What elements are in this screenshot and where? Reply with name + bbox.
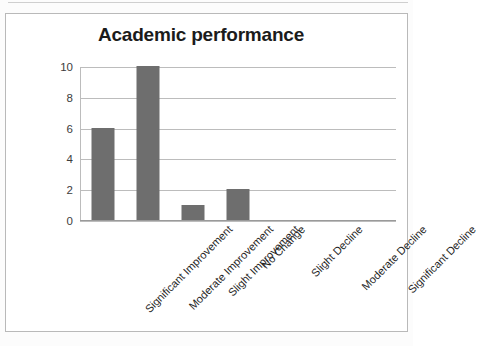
bar-slot xyxy=(351,67,396,220)
page-edge-rule xyxy=(8,2,408,3)
y-axis-tick-label: 2 xyxy=(67,184,73,196)
bar xyxy=(181,205,204,220)
bar-slot xyxy=(170,67,215,220)
bar xyxy=(136,66,159,220)
bar xyxy=(226,189,249,220)
y-axis-tick-label: 10 xyxy=(60,61,73,73)
y-axis-tick-label: 8 xyxy=(67,92,73,104)
bar-slot xyxy=(215,67,260,220)
chart-frame: Academic performance 0246810 Significant… xyxy=(5,13,408,332)
bar-slot xyxy=(306,67,351,220)
y-axis-tick-label: 6 xyxy=(67,123,73,135)
bar-slot xyxy=(125,67,170,220)
bar-slot xyxy=(80,67,125,220)
y-axis-tick-label: 4 xyxy=(67,153,73,165)
y-axis-tick-label: 0 xyxy=(67,215,73,227)
gridline: 0 xyxy=(80,221,396,222)
bar xyxy=(91,128,114,220)
x-axis-tick-labels: Significant ImprovementModerate Improvem… xyxy=(80,223,396,333)
bar-slot xyxy=(261,67,306,220)
x-axis-tick-label: Slight Decline xyxy=(308,223,364,279)
bar-series xyxy=(80,67,396,221)
chart-title: Academic performance xyxy=(6,24,396,46)
plot-area: 0246810 xyxy=(80,67,396,221)
